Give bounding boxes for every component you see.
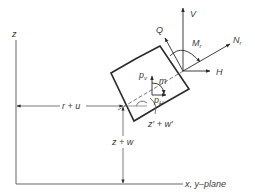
m-label: m	[159, 76, 167, 86]
q-label: Q	[156, 25, 163, 35]
meridian-angle-arc	[136, 101, 147, 106]
h-label: H	[216, 67, 223, 77]
v-label: V	[190, 9, 197, 19]
radial-dimension-label: r + u	[62, 101, 80, 111]
pv-label: pv	[138, 70, 148, 81]
shell-element-diagram: z x, y–plane r + u z + w z′ + w′ pv pH m…	[0, 0, 255, 196]
height-dimension-label: z + w	[111, 137, 134, 147]
z-axis-label: z	[11, 29, 17, 39]
m-edge-label: Mr	[192, 38, 203, 49]
mid-surface-line	[118, 70, 185, 110]
ph-label: pH	[153, 95, 164, 106]
n-label: Nr	[233, 35, 243, 46]
meridian-label: z′ + w′	[147, 119, 173, 129]
n-arrow	[183, 44, 230, 71]
xy-plane-label: x, y–plane	[184, 179, 226, 189]
